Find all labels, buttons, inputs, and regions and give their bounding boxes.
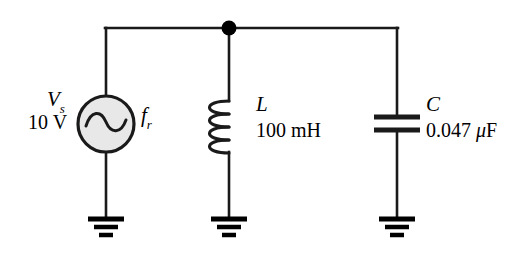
inductor-symbol [210, 101, 230, 153]
capacitor-unit-prefix: μ [476, 119, 486, 141]
inductor-value-label: 100 mH [256, 120, 321, 141]
source-frequency-symbol-text: f [141, 103, 147, 127]
capacitor-symbol-label: C [426, 93, 440, 115]
source-symbol-label: Vs [47, 88, 65, 113]
ground-symbol-group [88, 219, 415, 235]
inductor-coil-loop [210, 101, 230, 114]
ground-symbol-source [88, 219, 124, 235]
source-value-label: 10 V [28, 112, 67, 133]
ground-symbol-capacitor [379, 219, 415, 235]
inductor-coil-loop [210, 140, 230, 153]
ac-voltage-source-symbol [78, 96, 134, 152]
circuit-diagram: Vs 10 V fr L 100 mH C 0.047 μF [0, 0, 526, 253]
capacitor-value-number: 0.047 [426, 119, 471, 141]
inductor-coil-loop [210, 127, 230, 140]
ground-symbol-inductor [211, 219, 247, 235]
source-frequency-label: fr [141, 104, 152, 129]
top-node-junction-dot [222, 21, 237, 36]
inductor-symbol-label: L [256, 93, 268, 115]
inductor-coil-loop [210, 114, 230, 127]
source-frequency-subscript: r [147, 117, 152, 132]
capacitor-value-label: 0.047 μF [426, 120, 497, 141]
capacitor-symbol [374, 117, 420, 130]
source-symbol-text: V [47, 87, 60, 111]
capacitor-unit: F [486, 119, 497, 141]
